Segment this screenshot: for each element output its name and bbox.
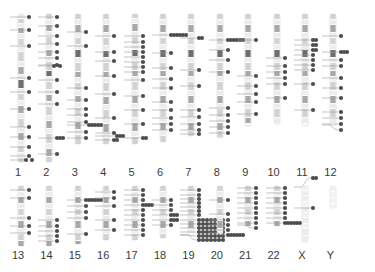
ideogram-band (18, 209, 23, 215)
ideogram-band (246, 104, 251, 108)
ideogram-band (274, 25, 279, 32)
ideogram-band (217, 229, 222, 233)
ideogram-band (189, 20, 194, 24)
ideogram-band (160, 221, 165, 228)
marker-dot (339, 96, 343, 100)
ideogram-band (302, 50, 307, 57)
ideogram-band (246, 204, 251, 208)
marker-connector (322, 125, 339, 130)
chromosome-12 (310, 14, 374, 156)
ideogram-band (160, 136, 165, 142)
ideogram-band (246, 109, 251, 117)
ideogram-band (274, 14, 279, 19)
ideogram-band (75, 117, 80, 121)
ideogram-band (246, 71, 251, 76)
ideogram-band (75, 63, 80, 71)
ideogram-band (18, 39, 23, 45)
ideogram-band (75, 96, 80, 102)
ideogram-band (217, 38, 222, 44)
ideogram-band (302, 218, 307, 223)
ideogram-band (189, 197, 194, 203)
ideogram-band (274, 33, 279, 37)
ideogram-band (104, 216, 109, 220)
ideogram-band (302, 33, 307, 37)
ideogram-band (331, 71, 336, 76)
ideogram-band (302, 45, 307, 49)
marker-dot (339, 58, 343, 62)
ideogram-band (302, 191, 307, 195)
ideogram-band (75, 122, 80, 129)
ideogram-band (160, 25, 165, 32)
ideogram-band (18, 24, 23, 27)
ideogram-band (160, 131, 165, 135)
ideogram-band (189, 204, 194, 208)
chromosome-label-Y: Y (310, 249, 350, 261)
ideogram-band (132, 37, 137, 44)
ideogram-band (246, 221, 251, 226)
ideogram-band (47, 209, 52, 215)
ideogram-band (274, 96, 279, 103)
ideogram-band (47, 77, 52, 81)
ideogram-band (75, 103, 80, 107)
ideogram-band (217, 50, 222, 57)
ideogram-band (331, 204, 336, 208)
ideogram-band (331, 38, 336, 44)
ideogram-band (104, 119, 109, 123)
ideogram-band (160, 45, 165, 49)
ideogram-band (132, 50, 137, 56)
karyogram-figure: 12345678910111213141516171819202122XY (0, 0, 375, 272)
ideogram-band (47, 107, 52, 115)
ideogram-band (189, 58, 194, 62)
ideogram-band (331, 104, 336, 108)
ideogram-band (274, 77, 279, 81)
marker-dot (339, 64, 343, 68)
ideogram-band (18, 28, 23, 33)
ideogram-band (18, 141, 23, 145)
ideogram-band (274, 50, 279, 57)
ideogram-band (47, 116, 52, 120)
ideogram-band (132, 221, 137, 228)
ideogram-band (331, 192, 336, 197)
ideogram-band (132, 216, 137, 220)
marker-dot (339, 76, 343, 80)
ideogram-band (331, 82, 336, 90)
ideogram-band (274, 192, 279, 196)
ideogram-band (302, 104, 307, 108)
ideogram-band (274, 118, 279, 123)
ideogram-band (75, 33, 80, 37)
ideogram-band (274, 58, 279, 62)
ideogram-band (104, 97, 109, 104)
ideogram-band (18, 34, 23, 38)
ideogram-band (189, 91, 194, 95)
ideogram-band (160, 58, 165, 62)
ideogram-band (132, 57, 137, 61)
marker-connector (294, 178, 311, 187)
ideogram-band (160, 186, 165, 191)
ideogram-band (47, 20, 52, 24)
ideogram-band (75, 72, 80, 77)
ideogram-band (75, 83, 80, 90)
ideogram-band (104, 192, 109, 196)
ideogram-band (160, 192, 165, 196)
ideogram-band (274, 91, 279, 95)
ideogram-band (302, 63, 307, 70)
ideogram-band (189, 25, 194, 32)
ideogram-band (104, 78, 109, 82)
ideogram-band (331, 77, 336, 81)
ideogram-band (47, 37, 52, 44)
ideogram-band (246, 209, 251, 215)
ideogram-band (104, 186, 109, 191)
ideogram-band (132, 132, 137, 136)
ideogram-band (47, 192, 52, 196)
ideogram-band (217, 104, 222, 108)
ideogram-band (217, 123, 222, 130)
ideogram-band (47, 134, 52, 143)
ideogram-band (75, 135, 80, 144)
ideogram-band (18, 62, 23, 66)
ideogram-band (18, 153, 23, 157)
ideogram-band (47, 221, 52, 228)
ideogram-band (75, 78, 80, 82)
ideogram-band (189, 216, 194, 220)
ideogram-band (104, 33, 109, 37)
ideogram-band (75, 58, 80, 62)
